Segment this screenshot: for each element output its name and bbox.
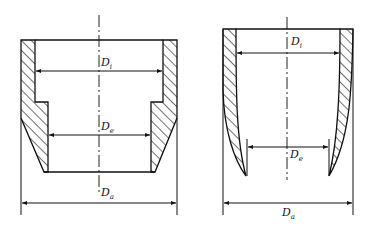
right-part-right-wall-section	[329, 29, 353, 176]
right-de-label: De	[289, 148, 303, 163]
left-di-label: Di	[100, 56, 112, 71]
technical-drawing: Di De Da Di	[0, 0, 373, 229]
left-part-drawing: Di De Da	[21, 15, 177, 215]
right-da-label: Da	[281, 206, 295, 221]
left-de-label: De	[100, 120, 114, 135]
right-part-drawing: Di De Da	[223, 17, 353, 221]
left-part-left-wall-section	[21, 40, 48, 172]
left-part-right-wall-section	[151, 40, 177, 172]
left-da-label: Da	[100, 186, 114, 201]
right-di-label: Di	[290, 35, 302, 50]
right-part-left-wall-section	[223, 29, 246, 176]
